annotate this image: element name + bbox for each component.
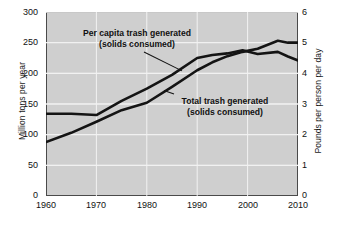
- y-tick-right-1: 1: [302, 160, 336, 170]
- y-tick-right-6: 6: [302, 7, 336, 17]
- annotation-total-line1: Total trash generated: [156, 96, 294, 107]
- y-tick-right-2: 2: [302, 129, 336, 139]
- y-tick-right-0: 0: [302, 190, 336, 200]
- y-tick-right-3: 3: [302, 99, 336, 109]
- x-tick-2010: 2010: [278, 200, 318, 210]
- y-tick-right-4: 4: [302, 68, 336, 78]
- x-tick-1960: 1960: [26, 200, 66, 210]
- y-tick-right-5: 5: [302, 37, 336, 47]
- y-tick-left-250: 250: [4, 37, 38, 47]
- x-tick-1970: 1970: [76, 200, 116, 210]
- annotation-total-line2: (solids consumed): [156, 107, 294, 118]
- annotation-per-capita-line2: (solids consumed): [62, 39, 212, 50]
- x-tick-2000: 2000: [228, 200, 268, 210]
- x-tick-1980: 1980: [127, 200, 167, 210]
- annotation-total: Total trash generated (solids consumed): [156, 96, 294, 117]
- trash-generation-chart: Million tons per year Pounds per person …: [0, 0, 340, 227]
- y-tick-left-300: 300: [4, 7, 38, 17]
- annotation-per-capita-line1: Per capita trash generated: [62, 28, 212, 39]
- y-tick-left-100: 100: [4, 129, 38, 139]
- x-tick-1990: 1990: [177, 200, 217, 210]
- y-tick-left-200: 200: [4, 68, 38, 78]
- y-tick-left-0: 0: [4, 190, 38, 200]
- annotation-per-capita: Per capita trash generated (solids consu…: [62, 28, 212, 49]
- y-tick-left-50: 50: [4, 160, 38, 170]
- y-tick-left-150: 150: [4, 99, 38, 109]
